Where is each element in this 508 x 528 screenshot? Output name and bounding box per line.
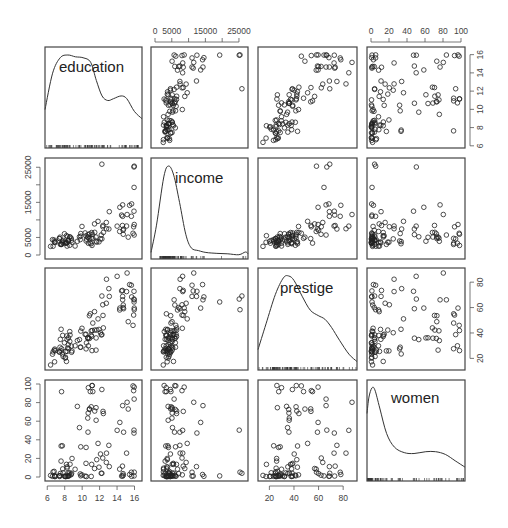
variable-label-education: education (59, 58, 124, 75)
data-point (180, 274, 185, 279)
data-point (303, 235, 308, 240)
data-point (191, 66, 196, 71)
tick-label: 60 (23, 416, 33, 426)
data-point (457, 328, 462, 333)
data-point (414, 274, 419, 279)
data-point (414, 70, 419, 75)
tick-label: 16 (475, 50, 485, 60)
data-point (441, 212, 446, 217)
data-point (392, 289, 397, 294)
data-point (94, 336, 99, 341)
tick-label: 25000 (23, 155, 33, 179)
data-point (121, 430, 126, 435)
data-point (392, 82, 397, 87)
tick-label: 80 (23, 398, 33, 408)
data-point (126, 407, 131, 412)
data-point (401, 90, 406, 95)
data-point (305, 441, 310, 446)
data-point (416, 110, 421, 115)
data-point (264, 462, 269, 467)
data-point (172, 397, 177, 402)
data-point (391, 330, 396, 335)
data-point (324, 397, 329, 402)
tick-label: 14 (475, 68, 485, 78)
data-point (438, 65, 443, 70)
data-point (333, 464, 338, 469)
tick-label: 15000 (194, 26, 218, 36)
data-point (325, 428, 330, 433)
data-point (286, 130, 291, 135)
data-point (118, 420, 123, 425)
data-point (378, 89, 383, 94)
data-point (190, 283, 195, 288)
data-point (451, 346, 456, 351)
data-point (324, 233, 329, 238)
data-point (347, 70, 352, 75)
data-point (370, 363, 375, 368)
data-point (327, 202, 332, 207)
data-point (84, 445, 89, 450)
data-point (347, 224, 352, 229)
data-point (315, 430, 320, 435)
data-point (261, 473, 266, 478)
data-point (437, 112, 442, 117)
data-point (115, 428, 120, 433)
data-point (78, 329, 83, 334)
data-point (457, 97, 462, 102)
data-point (314, 164, 319, 169)
data-point (172, 298, 177, 303)
data-point (294, 109, 299, 114)
data-point (194, 464, 199, 469)
data-point (96, 317, 101, 322)
data-point (285, 425, 290, 430)
data-point (379, 65, 384, 70)
data-point (48, 363, 53, 368)
data-point (322, 185, 327, 190)
tick-label: 80 (338, 493, 348, 503)
data-point (350, 60, 355, 65)
data-point (376, 68, 381, 73)
data-point (299, 54, 304, 59)
data-point (180, 107, 185, 112)
data-point (327, 86, 332, 91)
data-point (324, 403, 329, 408)
data-point (451, 321, 456, 326)
data-point (86, 430, 91, 435)
data-point (132, 209, 137, 214)
data-point (378, 327, 383, 332)
data-point (171, 359, 176, 364)
tick-label: 12 (475, 86, 485, 96)
tick-label: 80 (475, 277, 485, 287)
data-point (132, 428, 137, 433)
data-point (201, 298, 206, 303)
data-point (101, 326, 106, 331)
data-point (319, 456, 324, 461)
data-point (312, 94, 317, 99)
data-point (52, 360, 57, 365)
tick-label: 14 (112, 493, 122, 503)
data-point (161, 363, 166, 368)
tick-label: 20 (384, 26, 394, 36)
data-point (80, 224, 85, 229)
data-point (58, 337, 63, 342)
data-point (452, 313, 457, 318)
data-point (292, 452, 297, 457)
data-point (316, 385, 321, 390)
data-point (412, 64, 417, 69)
data-point (190, 56, 195, 61)
data-point (412, 101, 417, 106)
tick-label: 100 (23, 377, 33, 391)
data-point (332, 451, 337, 456)
data-point (399, 227, 404, 232)
data-point (132, 185, 137, 190)
data-point (67, 329, 72, 334)
tick-label: 5000 (23, 228, 33, 247)
data-point (379, 79, 384, 84)
panel-education-vs-prestige (258, 47, 357, 148)
data-point (85, 416, 90, 421)
variable-label-prestige: prestige (280, 279, 333, 296)
panel-women-vs-prestige (258, 380, 357, 481)
data-point (411, 209, 416, 214)
tick-label: 5000 (162, 26, 181, 36)
data-point (303, 407, 308, 412)
